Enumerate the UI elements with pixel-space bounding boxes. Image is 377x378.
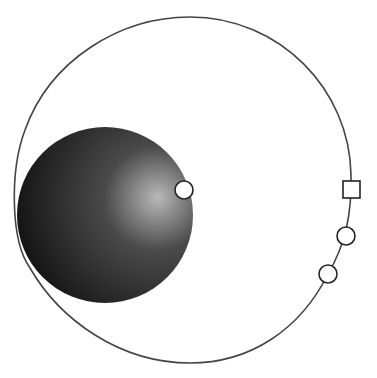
planet-sphere bbox=[17, 127, 193, 303]
marker-circle-lower bbox=[319, 265, 337, 283]
orbit-diagram bbox=[0, 0, 377, 378]
marker-square bbox=[343, 181, 360, 198]
marker-circle-mid bbox=[337, 227, 355, 245]
marker-circle-on-sphere bbox=[175, 181, 193, 199]
diagram-svg bbox=[0, 0, 377, 378]
